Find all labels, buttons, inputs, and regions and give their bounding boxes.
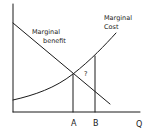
marginal-analysis-diagram: Marginal benefit Marginal Cost ? A B Q [0, 0, 156, 134]
quantity-b-label: B [93, 119, 99, 128]
marginal-cost-label-line2: Cost [104, 23, 119, 31]
deadweight-region-label: ? [84, 70, 87, 78]
marginal-benefit-label-line1: Marginal [32, 28, 60, 36]
x-axis-label: Q [136, 120, 142, 129]
marginal-cost-label-line1: Marginal [104, 14, 132, 22]
marginal-benefit-label-line2: benefit [43, 37, 66, 45]
quantity-a-label: A [71, 119, 77, 128]
